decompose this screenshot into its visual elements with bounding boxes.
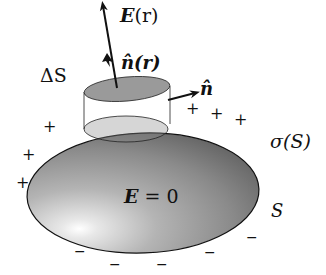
field-label: E(r) xyxy=(120,4,158,26)
positive-charge: + xyxy=(16,173,29,192)
normal-r-label: n̂(r) xyxy=(121,52,161,73)
negative-charge: − xyxy=(246,229,258,245)
field-argument: (r) xyxy=(134,4,158,26)
positive-charge: + xyxy=(234,110,247,129)
positive-charge: + xyxy=(43,117,56,136)
field-vector-symbol: E xyxy=(120,4,134,26)
inside-field-symbol: E xyxy=(124,185,138,207)
inside-field-label: E = 0 xyxy=(124,185,179,207)
surface-label: S xyxy=(271,200,283,221)
positive-charge: + xyxy=(22,145,35,164)
positive-charge: + xyxy=(186,99,199,118)
inside-field-value: = 0 xyxy=(138,185,178,207)
surface-charge-label: σ(S) xyxy=(270,130,311,152)
normal-side-label: n̂ xyxy=(200,78,213,99)
delta-s-label: ΔS xyxy=(40,64,67,86)
negative-charge: − xyxy=(156,256,168,272)
field-arrow xyxy=(103,6,117,88)
positive-charge: + xyxy=(210,104,223,123)
negative-charge: − xyxy=(109,256,121,272)
negative-charge: − xyxy=(74,243,86,259)
negative-charge: − xyxy=(204,244,216,260)
pillbox xyxy=(83,73,171,142)
